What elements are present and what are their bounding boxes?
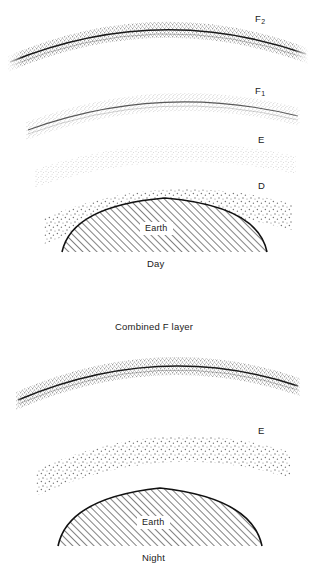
layer-label-e-night: E bbox=[258, 426, 265, 436]
layer-label-d-day: D bbox=[258, 181, 265, 191]
layer-label-e-day: E bbox=[258, 135, 265, 145]
layer-label-f1-sub: 1 bbox=[261, 90, 265, 97]
layer-label-f2-sub: 2 bbox=[261, 18, 265, 25]
layer-label-f2: F2 bbox=[255, 14, 265, 24]
night-panel-graphics bbox=[0, 320, 316, 510]
earth-label-day: Earth bbox=[140, 222, 173, 235]
earth-label-night: Earth bbox=[137, 516, 170, 529]
panel-caption-day: Day bbox=[147, 259, 165, 269]
diagram-canvas bbox=[0, 0, 316, 584]
panel-caption-night: Night bbox=[142, 553, 165, 563]
layer-band-f-night bbox=[0, 320, 316, 430]
layer-label-f1: F1 bbox=[255, 86, 265, 96]
combined-f-layer-label: Combined F layer bbox=[115, 322, 193, 332]
ionosphere-diagram: F2 F1 E D Earth Day Combined F layer E E… bbox=[0, 0, 316, 584]
